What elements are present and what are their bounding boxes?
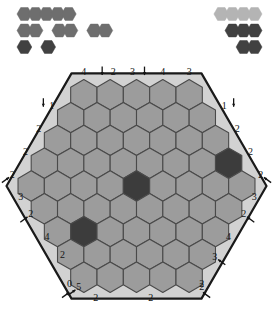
right-piece-tray <box>214 8 262 54</box>
tray-piece[interactable] <box>17 41 32 54</box>
clue-left-0: 2 <box>10 169 15 180</box>
tray-piece[interactable] <box>28 24 43 37</box>
tray-piece[interactable] <box>98 24 113 37</box>
clue-arrow-topleft-0-head <box>42 104 45 107</box>
clue-topleft-1: 2 <box>36 123 41 134</box>
puzzle-stage: 423431221222324252324320222 <box>0 0 273 327</box>
clue-left-4: 2 <box>60 249 65 260</box>
clue-left-2: 2 <box>28 208 33 219</box>
clue-left-3: 4 <box>45 231 50 242</box>
clue-top-0: 4 <box>81 66 86 77</box>
clue-right-4: 3 <box>212 251 217 262</box>
clue-top-4: 3 <box>187 66 192 77</box>
tray-piece[interactable] <box>61 8 76 21</box>
puzzle-canvas[interactable]: 423431221222324252324320222 <box>0 0 273 327</box>
clue-topleft-0: 1 <box>49 100 54 111</box>
clue-bottom-2: 2 <box>148 292 153 303</box>
tray-piece[interactable] <box>41 41 56 54</box>
clue-top-2: 3 <box>130 66 135 77</box>
clue-right-2: 2 <box>241 208 246 219</box>
clue-right-0: 2 <box>258 169 263 180</box>
clue-top-3: 4 <box>160 66 165 77</box>
clue-bottom-1: 2 <box>93 292 98 303</box>
tray-piece[interactable] <box>247 24 262 37</box>
clue-right-3: 4 <box>226 231 231 242</box>
clue-topleft-2: 2 <box>23 146 28 157</box>
clue-topright-1: 2 <box>235 123 240 134</box>
clue-arrow-topright-0-head <box>232 104 235 107</box>
clue-bottom-0: 0 <box>67 278 72 289</box>
clue-left-5: 5 <box>76 281 81 292</box>
clue-topright-2: 2 <box>248 146 253 157</box>
clue-left-1: 3 <box>18 191 23 202</box>
tray-piece[interactable] <box>247 8 262 21</box>
clue-right-1: 3 <box>252 191 257 202</box>
left-piece-tray <box>17 8 113 54</box>
clue-top-1: 2 <box>111 66 116 77</box>
clue-bottom-3: 2 <box>199 278 204 289</box>
clue-topright-0: 1 <box>222 100 227 111</box>
tray-piece[interactable] <box>63 24 78 37</box>
tray-piece[interactable] <box>247 41 262 54</box>
